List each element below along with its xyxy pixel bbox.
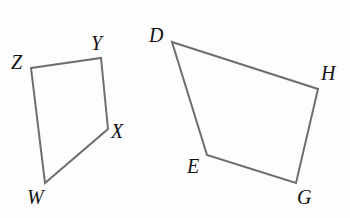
- vertex-label-z: Z: [11, 52, 22, 72]
- geometry-figure: Z Y X W D H G E: [0, 0, 350, 218]
- vertex-label-x: X: [111, 121, 123, 141]
- vertex-label-e: E: [187, 156, 199, 176]
- vertex-label-y: Y: [91, 33, 102, 53]
- quadrilateral-wxyz: [31, 58, 108, 183]
- vertex-label-h: H: [321, 63, 335, 83]
- vertex-label-d: D: [149, 25, 163, 45]
- vertex-label-w: W: [27, 187, 44, 207]
- vertex-label-g: G: [297, 187, 311, 207]
